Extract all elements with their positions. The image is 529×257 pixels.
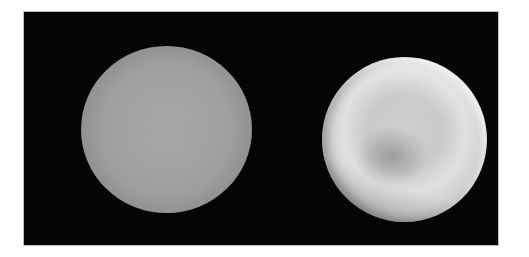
- image-panel: left planet disk right planet disk: [24, 12, 498, 245]
- planet-left: left planet disk: [81, 46, 252, 213]
- planet-right: right planet disk: [322, 57, 487, 222]
